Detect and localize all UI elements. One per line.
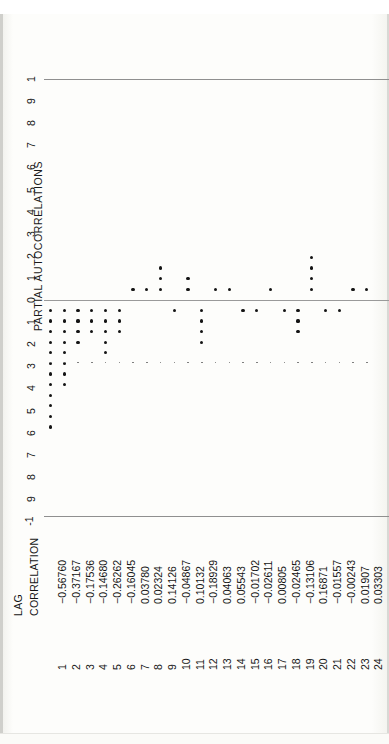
data-mark-lag-19 bbox=[295, 307, 302, 314]
y-axis-tick-5: 5 bbox=[25, 402, 37, 420]
data-mark-lag-20 bbox=[308, 275, 315, 282]
table-cell-correlation: −0.56760 bbox=[56, 560, 68, 604]
y-axis-tick-8: 8 bbox=[25, 114, 37, 132]
data-mark-lag-1 bbox=[47, 371, 54, 378]
y-axis-tick-3: 3 bbox=[25, 357, 37, 375]
data-mark-lag-5 bbox=[102, 339, 109, 346]
data-mark-lag-19 bbox=[295, 328, 302, 335]
table-cell-lag: 24 bbox=[372, 658, 384, 670]
table-header-lag: LAG bbox=[12, 594, 24, 616]
data-mark-lag-11 bbox=[185, 275, 192, 282]
data-mark-lag-1 bbox=[47, 318, 54, 325]
data-mark-lag-16 bbox=[253, 307, 260, 314]
y-axis-tick-9: 9 bbox=[25, 490, 37, 508]
table-cell-lag: 9 bbox=[166, 664, 178, 670]
lag-tick-dot-16 bbox=[253, 359, 260, 366]
data-mark-lag-2 bbox=[61, 307, 68, 314]
pacf-plot: PARTIAL AUTOCORRELATIONS 198765432101234… bbox=[0, 0, 389, 525]
lag-tick-dot-3 bbox=[75, 359, 82, 366]
table-cell-lag: 14 bbox=[235, 658, 247, 670]
table-cell-correlation: −0.02611 bbox=[262, 561, 274, 604]
y-axis-tick-2: 2 bbox=[25, 247, 37, 265]
data-mark-lag-1 bbox=[47, 328, 54, 335]
data-mark-lag-9 bbox=[157, 286, 164, 293]
data-mark-lag-1 bbox=[47, 424, 54, 431]
data-mark-lag-3 bbox=[75, 339, 82, 346]
lag-tick-dot-23 bbox=[350, 359, 357, 366]
data-mark-lag-5 bbox=[102, 307, 109, 314]
data-mark-lag-11 bbox=[185, 286, 192, 293]
lag-tick-dot-10 bbox=[171, 359, 178, 366]
y-axis-tick-7: 7 bbox=[25, 446, 37, 464]
y-axis-tick-5: 5 bbox=[25, 181, 37, 199]
data-mark-lag-12 bbox=[198, 328, 205, 335]
table-cell-correlation: 0.16871 bbox=[317, 566, 329, 604]
table-cell-correlation: 0.10132 bbox=[194, 566, 206, 604]
data-mark-lag-13 bbox=[212, 286, 219, 293]
data-mark-lag-22 bbox=[336, 307, 343, 314]
data-mark-lag-3 bbox=[75, 318, 82, 325]
data-mark-lag-1 bbox=[47, 413, 54, 420]
table-cell-lag: 6 bbox=[125, 664, 137, 670]
data-mark-lag-2 bbox=[61, 318, 68, 325]
table-cell-correlation: 0.14126 bbox=[166, 566, 178, 604]
y-axis-tick-2: 2 bbox=[25, 335, 37, 353]
table-cell-lag: 13 bbox=[221, 658, 233, 670]
y-axis-tick-3: 3 bbox=[25, 225, 37, 243]
reference-line-zero bbox=[44, 300, 389, 301]
table-cell-correlation: 0.03303 bbox=[372, 566, 384, 604]
table-cell-lag: 2 bbox=[70, 664, 82, 670]
lag-tick-dot-8 bbox=[143, 359, 150, 366]
data-mark-lag-5 bbox=[102, 350, 109, 357]
data-mark-lag-18 bbox=[281, 307, 288, 314]
lag-tick-dot-11 bbox=[185, 359, 192, 366]
lag-correlation-table: LAG CORRELATION −0.567601−0.371672−0.175… bbox=[0, 520, 389, 744]
table-cell-lag: 7 bbox=[139, 664, 151, 670]
data-mark-lag-3 bbox=[75, 328, 82, 335]
table-cell-correlation: −0.04867 bbox=[180, 560, 192, 604]
table-cell-lag: 10 bbox=[180, 658, 192, 670]
table-cell-correlation: 0.02324 bbox=[152, 566, 164, 604]
y-axis-tick-6: 6 bbox=[25, 424, 37, 442]
lag-tick-dot-17 bbox=[267, 359, 274, 366]
data-mark-lag-2 bbox=[61, 381, 68, 388]
data-mark-lag-4 bbox=[88, 318, 95, 325]
y-axis-tick-4: 4 bbox=[25, 203, 37, 221]
data-mark-lag-10 bbox=[171, 307, 178, 314]
table-cell-correlation: −0.00243 bbox=[345, 560, 357, 604]
table-header-correlation: CORRELATION bbox=[28, 538, 40, 616]
table-cell-correlation: −0.16045 bbox=[125, 560, 137, 604]
data-mark-lag-20 bbox=[308, 254, 315, 261]
data-mark-lag-2 bbox=[61, 350, 68, 357]
table-cell-lag: 12 bbox=[207, 658, 219, 670]
reference-line-bottom bbox=[44, 516, 389, 517]
lag-tick-dot-15 bbox=[240, 359, 247, 366]
lag-tick-dot-12 bbox=[198, 359, 205, 366]
data-mark-lag-4 bbox=[88, 307, 95, 314]
table-cell-lag: 21 bbox=[331, 658, 343, 670]
lag-tick-dot-6 bbox=[116, 359, 123, 366]
data-mark-lag-12 bbox=[198, 339, 205, 346]
table-cell-correlation: −0.18929 bbox=[207, 560, 219, 604]
table-cell-lag: 17 bbox=[276, 658, 288, 670]
data-mark-lag-23 bbox=[350, 286, 357, 293]
data-mark-lag-12 bbox=[198, 307, 205, 314]
reference-line-top bbox=[44, 79, 389, 80]
data-mark-lag-1 bbox=[47, 339, 54, 346]
data-mark-lag-4 bbox=[88, 328, 95, 335]
table-cell-correlation: −0.26262 bbox=[111, 560, 123, 604]
data-mark-lag-6 bbox=[116, 307, 123, 314]
data-mark-lag-8 bbox=[143, 286, 150, 293]
data-mark-lag-20 bbox=[308, 286, 315, 293]
table-cell-lag: 3 bbox=[84, 664, 96, 670]
table-cell-lag: 19 bbox=[304, 658, 316, 670]
table-cell-lag: 5 bbox=[111, 664, 123, 670]
data-mark-lag-5 bbox=[102, 328, 109, 335]
table-cell-correlation: −0.02465 bbox=[290, 560, 302, 604]
table-cell-lag: 11 bbox=[194, 659, 206, 670]
table-cell-correlation: −0.13106 bbox=[304, 560, 316, 604]
lag-tick-dot-19 bbox=[295, 359, 302, 366]
table-cell-correlation: 0.01907 bbox=[359, 566, 371, 604]
data-mark-lag-1 bbox=[47, 381, 54, 388]
table-cell-lag: 8 bbox=[152, 664, 164, 670]
